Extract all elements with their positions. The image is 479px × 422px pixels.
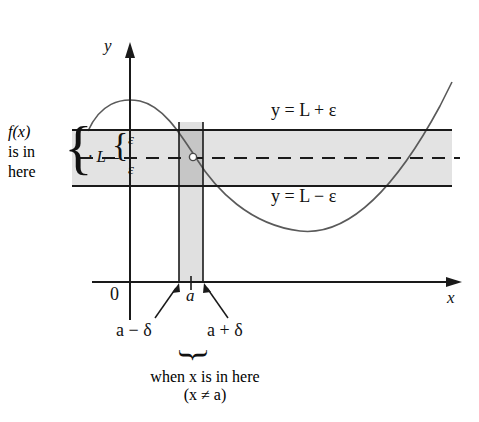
x-axis-arrowhead [446,277,462,287]
delta-strip-fill-upper [179,122,203,130]
limit-definition-figure: y x 0 a y = L + ε y = L − ε · L – { ε ε … [0,0,479,422]
epsilon-brace: { [112,128,128,162]
delta-interval-underbrace: { [174,347,208,363]
tick-label-a: a [186,286,195,306]
upper-band-label: y = L + ε [271,100,336,121]
epsilon-lower-label: ε [128,161,134,178]
x-axis-label: x [447,288,455,308]
figure-canvas [0,0,479,422]
epsilon-upper-label: ε [128,131,134,148]
fx-label-line2: is in [8,142,36,162]
origin-label: 0 [110,284,119,305]
a-minus-delta-arrowhead [172,283,180,293]
hole-open-circle [189,153,196,160]
delta-strip-fill [179,186,203,282]
limit-level-text: L [97,147,106,166]
when-x-line2: (x ≠ a) [90,386,320,404]
fx-range-brace: { [64,117,93,177]
y-axis-label: y [104,36,112,56]
a-minus-delta-label: a − δ [116,320,152,341]
fx-is-in-here-annotation: f(x) is in here [8,122,36,182]
fx-label-line1: f(x) [8,122,36,142]
a-plus-delta-label: a + δ [207,320,243,341]
fx-label-line3: here [8,162,36,182]
y-axis-arrowhead [125,42,135,58]
a-plus-delta-arrowhead [203,283,211,293]
a-plus-delta-leader-line [207,288,228,318]
when-x-line1: when x is in here [90,368,320,386]
when-x-annotation: when x is in here (x ≠ a) [90,368,320,404]
lower-band-label: y = L − ε [271,186,336,207]
